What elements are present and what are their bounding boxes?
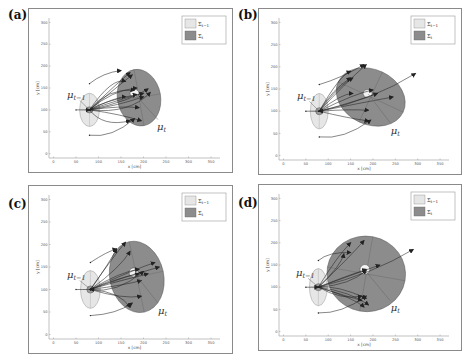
svg-text:50: 50	[43, 310, 48, 314]
panel-label-d: (d)	[238, 196, 258, 210]
svg-text:150: 150	[118, 160, 126, 164]
panel-d: 050100150200250300350050100150200250300x…	[258, 184, 462, 351]
svg-text:200: 200	[271, 241, 279, 245]
plot-b: 050100150200250300350050100150200250300x…	[259, 9, 463, 176]
svg-text:50: 50	[304, 338, 309, 342]
legend: Σt−1Σt	[411, 16, 455, 44]
y-axis-label: y [cm]	[35, 260, 40, 274]
svg-text:150: 150	[271, 87, 279, 91]
svg-text:0: 0	[275, 154, 278, 158]
svg-text:250: 250	[392, 338, 400, 342]
panel-c: 050100150200250300350050100150200250300x…	[28, 185, 233, 354]
svg-text:250: 250	[163, 341, 171, 345]
svg-text:100: 100	[95, 160, 103, 164]
svg-text:μt−1: μt−1	[67, 89, 86, 102]
plot-a: 050100150200250300350050100150200250300x…	[29, 9, 234, 174]
svg-text:μt−1: μt−1	[297, 90, 316, 103]
y-axis-label: y [cm]	[265, 258, 270, 272]
svg-text:100: 100	[41, 288, 49, 292]
svg-text:150: 150	[347, 162, 355, 166]
mu-prev-annotation: μt−1	[297, 90, 318, 111]
svg-text:250: 250	[41, 42, 49, 46]
svg-text:300: 300	[271, 197, 279, 201]
svg-text:0: 0	[45, 152, 48, 156]
svg-text:50: 50	[43, 130, 48, 134]
svg-text:300: 300	[185, 341, 193, 345]
svg-text:200: 200	[41, 64, 49, 68]
svg-text:350: 350	[437, 162, 445, 166]
panel-b: 050100150200250300350050100150200250300x…	[258, 8, 462, 175]
svg-text:0: 0	[282, 338, 285, 342]
panel-label-b: (b)	[238, 8, 258, 22]
svg-text:250: 250	[271, 219, 279, 223]
svg-text:50: 50	[273, 132, 278, 136]
y-axis-label: y [cm]	[265, 82, 270, 96]
panel-label-a: (a)	[8, 8, 27, 22]
x-axis-label: x [cm]	[357, 342, 371, 347]
svg-text:300: 300	[271, 21, 279, 25]
svg-text:100: 100	[325, 162, 333, 166]
svg-text:0: 0	[52, 160, 55, 164]
svg-text:μt: μt	[391, 125, 401, 138]
x-axis-label: x [cm]	[128, 345, 142, 350]
svg-text:50: 50	[74, 341, 79, 345]
svg-text:100: 100	[325, 338, 333, 342]
svg-text:50: 50	[304, 162, 309, 166]
svg-text:150: 150	[271, 263, 279, 267]
plot-d: 050100150200250300350050100150200250300x…	[259, 185, 463, 352]
svg-text:μt: μt	[157, 121, 167, 134]
svg-text:300: 300	[414, 162, 422, 166]
svg-text:μt: μt	[158, 305, 168, 318]
svg-text:100: 100	[41, 108, 49, 112]
legend: Σt−1Σt	[182, 16, 226, 44]
svg-text:50: 50	[74, 160, 79, 164]
svg-text:150: 150	[347, 338, 355, 342]
svg-text:0: 0	[52, 341, 55, 345]
svg-text:250: 250	[41, 220, 49, 224]
svg-text:0: 0	[45, 333, 48, 337]
svg-text:0: 0	[275, 330, 278, 334]
svg-text:350: 350	[208, 160, 216, 164]
svg-text:200: 200	[41, 243, 49, 247]
x-axis-label: x [cm]	[357, 166, 371, 171]
svg-text:300: 300	[41, 198, 49, 202]
mu-prev-annotation: μt−1	[296, 267, 317, 286]
panel-label-c: (c)	[8, 197, 27, 211]
plot-c: 050100150200250300350050100150200250300x…	[29, 186, 234, 355]
svg-text:50: 50	[273, 308, 278, 312]
svg-text:100: 100	[95, 341, 103, 345]
svg-text:100: 100	[271, 285, 279, 289]
svg-text:150: 150	[41, 265, 49, 269]
x-axis-label: x [cm]	[128, 164, 142, 169]
svg-text:350: 350	[208, 341, 216, 345]
svg-text:250: 250	[163, 160, 171, 164]
svg-text:μt−1: μt−1	[67, 269, 86, 282]
panel-a: 050100150200250300350050100150200250300x…	[28, 8, 233, 173]
svg-text:0: 0	[282, 162, 285, 166]
svg-text:100: 100	[271, 109, 279, 113]
legend: Σt−1Σt	[411, 192, 455, 220]
mu-prev-annotation: μt−1	[67, 89, 89, 109]
svg-text:300: 300	[41, 21, 49, 25]
svg-text:300: 300	[185, 160, 193, 164]
svg-text:150: 150	[41, 86, 49, 90]
y-axis-label: y [cm]	[35, 81, 40, 95]
svg-text:150: 150	[118, 341, 126, 345]
legend: Σt−1Σt	[182, 193, 226, 221]
svg-text:200: 200	[271, 65, 279, 69]
svg-text:250: 250	[271, 43, 279, 47]
svg-text:250: 250	[392, 162, 400, 166]
svg-text:μt: μt	[391, 302, 401, 315]
svg-text:350: 350	[437, 338, 445, 342]
svg-text:μt−1: μt−1	[296, 267, 315, 280]
svg-text:300: 300	[414, 338, 422, 342]
